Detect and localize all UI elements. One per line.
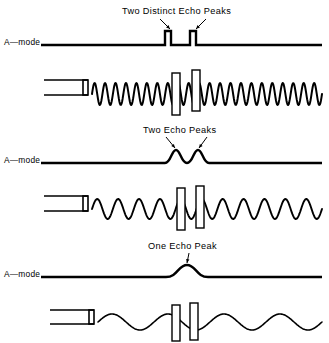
amode-trace-panel-3 <box>41 265 322 277</box>
transducer-crystal-panel-1 <box>83 80 88 95</box>
reflector-panel-1-1 <box>172 73 180 115</box>
sound-wave-panel-3 <box>98 314 322 330</box>
reflector-panel-2-2 <box>196 186 204 228</box>
transducer-body-panel-2 <box>44 196 88 211</box>
reflector-panel-1-2 <box>192 70 200 111</box>
sound-wave-panel-1 <box>92 83 322 105</box>
reflector-panel-2-1 <box>177 188 185 230</box>
reflector-panel-3-2 <box>190 303 198 340</box>
transducer-body-panel-3 <box>50 310 94 324</box>
sound-wave-panel-2 <box>92 199 322 219</box>
amode-trace-panel-1 <box>41 31 322 45</box>
amode-label-panel-1: A—mode <box>4 37 40 47</box>
caption-arrowhead-panel-3-1 <box>186 259 189 263</box>
amode-label-panel-3: A—mode <box>4 269 40 279</box>
transducer-crystal-panel-3 <box>89 310 94 324</box>
caption-two-echo-peaks: Two Echo Peaks <box>143 125 216 135</box>
transducer-body-panel-1 <box>44 80 88 95</box>
caption-two-distinct-echo-peaks: Two Distinct Echo Peaks <box>122 6 231 16</box>
amode-label-panel-2: A—mode <box>4 155 40 165</box>
ultrasound-amode-figure: Two Distinct Echo Peaks A—mode Two Echo … <box>0 0 329 343</box>
amode-trace-panel-2 <box>41 150 322 163</box>
diagram-canvas <box>0 0 329 343</box>
caption-one-echo-peak: One Echo Peak <box>148 241 217 251</box>
reflector-panel-3-1 <box>172 305 180 341</box>
transducer-crystal-panel-2 <box>83 196 88 211</box>
